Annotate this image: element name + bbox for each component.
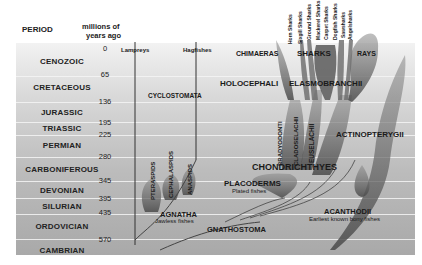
label-cephalaspids: CEPHALASPIDS [168,151,174,198]
label-anaspids: ANASPIDS [187,164,193,195]
label-acanthodii-sub: Earliest known bony fishes [309,216,380,222]
period-carboniferous: CARBONIFEROUS [14,165,110,174]
mya-column-header-line2: years ago [86,31,121,40]
label-placoderms-sub: Plated fishes [232,188,266,194]
mya-column-header-line1: millions of [82,22,120,31]
label-actinopterygii: ACTINOPTERYGII [336,130,404,139]
shark-order-carpet: Carpet Sharks [323,6,329,40]
label-placoderms: PLACODERMS [224,179,281,188]
tick-225: 225 [90,130,120,139]
label-pteraspids: PTERASPIDS [150,162,156,200]
period-permian: PERMIAN [14,141,110,150]
period-cenozoic: CENOZOIC [14,57,110,66]
label-hagfishes: Hagfishes [183,47,212,53]
shark-order-angel: Angelsharks [347,10,353,40]
fish-evolution-diagram: PERIOD millions of years ago CENOZOIC CR… [0,0,422,265]
shark-order-horn: Horn Sharks [287,14,293,44]
tick-435: 435 [90,208,120,217]
label-cladoselachii: CLADOSELACHII [293,117,299,166]
shark-order-mackerel: Mackerel Sharks [315,1,321,40]
label-bradyodonti: BRADYODONTI [277,121,283,166]
shark-order-dogfish: Dogfish Sharks [332,3,338,40]
tick-195: 195 [90,118,120,127]
tick-395: 395 [90,194,120,203]
tick-345: 345 [90,176,120,185]
shark-order-saw: Sawsharks [340,12,346,38]
label-gnathostoma: GNATHOSTOMA [207,225,266,234]
label-euselachii: EUSELACHII [308,124,315,163]
tick-280: 280 [90,152,120,161]
tick-0: 0 [90,44,120,53]
period-cretaceous: CRETACEOUS [14,83,110,92]
shark-order-sixgill: Sixgill Sharks [297,11,303,44]
label-holocephali: HOLOCEPHALI [220,79,278,88]
period-jurassic: JURASSIC [14,108,110,117]
label-lampreys: Lampreys [121,47,149,53]
period-cambrian: CAMBRIAN [14,246,110,255]
tick-136: 136 [90,97,120,106]
label-rays: RAYS [357,50,376,57]
label-cyclostomata: CYCLOSTOMATA [148,92,202,99]
label-agnatha-sub: Jawless fishes [155,218,194,224]
label-elasmobranchii: ELASMOBRANCHII [289,79,362,88]
label-chimaeras: CHIMAERAS [236,50,278,57]
label-acanthodii: ACANTHODII [324,207,371,216]
period-column-header: PERIOD [22,25,53,34]
period-ordovician: ORDOVICIAN [14,222,110,231]
tick-570: 570 [90,235,120,244]
tick-65: 65 [90,70,120,79]
shark-order-ground: Ground Sharks [306,4,312,40]
label-sharks: SHARKS [297,49,331,58]
